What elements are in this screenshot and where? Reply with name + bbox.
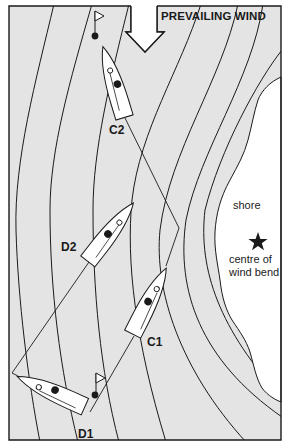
- wind-bend-sailing-diagram: PREVAILING WIND C2 D2 C1: [0, 0, 287, 445]
- wind-bend-label-line2: wind bend: [228, 266, 279, 278]
- boat-c2-label: C2: [109, 123, 125, 137]
- prevailing-wind-title: PREVAILING WIND: [161, 10, 266, 22]
- boat-d1-label: D1: [78, 427, 94, 441]
- boat-c1-label: C1: [147, 335, 163, 349]
- boat-d2-label: D2: [61, 240, 77, 254]
- wind-bend-label-line1: centre of: [229, 253, 273, 265]
- shore-label: shore: [233, 199, 261, 211]
